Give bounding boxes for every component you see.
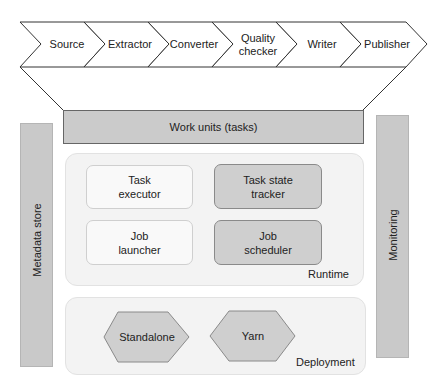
task-state-tracker-box: Task state tracker <box>214 164 322 209</box>
job-launcher-box: Job launcher <box>86 220 193 265</box>
stage-label: Writer <box>307 38 336 51</box>
mode-label: Standalone <box>119 331 175 344</box>
stage-extractor: Extractor <box>100 22 160 67</box>
stage-label: Publisher <box>364 38 410 51</box>
runtime-caption: Runtime <box>308 268 349 280</box>
task-executor-box: Task executor <box>86 165 193 209</box>
metadata-store-bar: Metadata store <box>20 123 53 367</box>
box-label-line1: Task state <box>243 173 293 187</box>
work-units-label: Work units (tasks) <box>170 121 258 134</box>
stage-label: Extractor <box>108 38 152 51</box>
monitoring-bar: Monitoring <box>376 115 409 358</box>
standalone-mode: Standalone <box>104 312 190 362</box>
box-label-line2: executor <box>118 187 160 201</box>
funnel-left-line <box>20 67 63 110</box>
work-units-bar: Work units (tasks) <box>63 110 364 144</box>
stage-label-line2: checker <box>239 45 278 58</box>
box-label-line2: scheduler <box>244 243 292 257</box>
box-label-line1: Job <box>131 229 149 243</box>
job-scheduler-box: Job scheduler <box>214 220 322 265</box>
stage-source: Source <box>41 22 93 67</box>
stage-label-line1: Quality <box>241 32 275 45</box>
stage-label: Source <box>50 38 85 51</box>
box-label-line2: launcher <box>118 243 160 257</box>
yarn-mode: Yarn <box>210 311 296 361</box>
metadata-store-label: Metadata store <box>31 194 43 286</box>
deployment-caption: Deployment <box>296 356 355 368</box>
box-label-line1: Job <box>259 229 277 243</box>
mode-label: Yarn <box>242 330 264 343</box>
stage-converter: Converter <box>164 22 224 67</box>
box-label-line1: Task <box>128 173 151 187</box>
stage-publisher: Publisher <box>356 22 418 67</box>
box-label-line2: tracker <box>251 187 285 201</box>
stage-label: Converter <box>170 38 218 51</box>
monitoring-label: Monitoring <box>387 195 399 275</box>
stage-quality-checker: Quality checker <box>228 22 288 67</box>
stage-writer: Writer <box>292 22 352 67</box>
funnel-right-line <box>363 67 406 110</box>
